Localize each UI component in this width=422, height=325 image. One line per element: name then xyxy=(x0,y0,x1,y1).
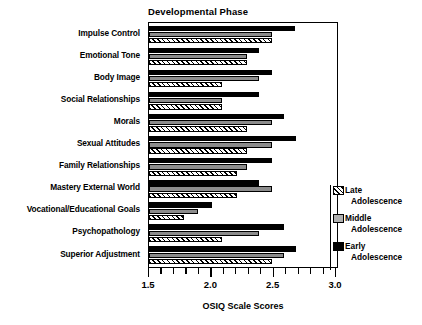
x-tick-minor xyxy=(185,268,186,274)
x-tick-label: 2.0 xyxy=(204,279,217,290)
x-tick-minor xyxy=(248,268,249,274)
x-tick-label: 2.5 xyxy=(266,279,279,290)
legend-label: EarlyAdolescence xyxy=(345,241,402,262)
x-tick-minor xyxy=(285,268,286,274)
x-tick-major xyxy=(148,268,149,277)
bar xyxy=(149,104,221,109)
bar xyxy=(149,114,284,119)
legend-label: MiddleAdolescence xyxy=(345,213,402,234)
category-label: Social Relationships xyxy=(61,94,140,104)
legend-divider xyxy=(330,185,331,270)
category-label: Superior Adjustment xyxy=(60,249,140,259)
bars-layer xyxy=(149,23,336,266)
category-label: Morals xyxy=(114,116,140,126)
bar xyxy=(149,60,246,65)
x-tick-minor xyxy=(198,268,199,274)
x-axis-label: OSIQ Scale Scores xyxy=(148,301,338,311)
category-label: Family Relationships xyxy=(59,160,140,170)
x-axis-tick-labels: 1.52.02.53.0 xyxy=(148,279,338,293)
bar xyxy=(149,215,184,220)
chart-title: Developmental Phase xyxy=(148,6,248,17)
bar xyxy=(149,231,259,236)
x-tick-minor xyxy=(173,268,174,274)
bar xyxy=(149,164,246,169)
bar xyxy=(149,158,271,163)
bar xyxy=(149,82,221,87)
bar xyxy=(149,148,246,153)
bar xyxy=(149,92,259,97)
category-axis-labels: Impulse ControlEmotional ToneBody ImageS… xyxy=(0,22,144,268)
x-tick-minor xyxy=(223,268,224,274)
bar xyxy=(149,120,271,125)
x-tick-minor xyxy=(323,268,324,274)
bar xyxy=(149,26,295,31)
x-tick-label: 3.0 xyxy=(328,279,341,290)
bar xyxy=(149,48,259,53)
legend-swatch xyxy=(333,186,344,195)
category-label: Psychopathology xyxy=(72,226,140,236)
bar xyxy=(149,259,271,264)
bar xyxy=(149,32,271,37)
x-axis-ticks xyxy=(148,268,338,278)
x-tick-minor xyxy=(310,268,311,274)
chart-legend: LateAdolescenceMiddleAdolescenceEarlyAdo… xyxy=(330,185,420,270)
category-label: Vocational/Educational Goals xyxy=(27,204,140,214)
bar xyxy=(149,76,259,81)
x-tick-label: 1.5 xyxy=(141,279,154,290)
x-tick-minor xyxy=(298,268,299,274)
bar xyxy=(149,38,271,43)
bar xyxy=(149,126,246,131)
x-tick-major xyxy=(210,268,211,277)
legend-swatch xyxy=(333,214,344,223)
bar xyxy=(149,70,271,75)
x-tick-minor xyxy=(235,268,236,274)
x-tick-minor xyxy=(160,268,161,274)
bar xyxy=(149,246,296,251)
bar xyxy=(149,136,296,141)
bar xyxy=(149,54,246,59)
legend-label: LateAdolescence xyxy=(345,185,402,206)
bar xyxy=(149,142,271,147)
bar xyxy=(149,193,236,198)
bar xyxy=(149,253,284,258)
bar xyxy=(149,224,284,229)
category-label: Body Image xyxy=(94,72,140,82)
bar xyxy=(149,186,271,191)
bar xyxy=(149,209,198,214)
bar xyxy=(149,98,221,103)
bar xyxy=(149,180,259,185)
category-label: Sexual Attitudes xyxy=(77,138,140,148)
category-label: Emotional Tone xyxy=(80,50,140,60)
osiq-bar-chart: Developmental Phase Impulse ControlEmoti… xyxy=(0,0,422,325)
x-tick-minor xyxy=(260,268,261,274)
legend-swatch xyxy=(333,242,344,251)
bar xyxy=(149,202,211,207)
category-label: Mastery External World xyxy=(50,182,140,192)
bar xyxy=(149,237,221,242)
bar xyxy=(149,171,236,176)
x-tick-major xyxy=(273,268,274,277)
category-label: Impulse Control xyxy=(78,28,140,38)
